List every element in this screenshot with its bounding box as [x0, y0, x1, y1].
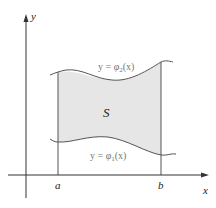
lower-curve-label: y = φ1(x) — [90, 150, 126, 163]
region-diagram: y x a b S y = φ2(x) y = φ1(x) — [0, 0, 216, 208]
y-axis-label: y — [30, 10, 36, 22]
region-label: S — [103, 105, 110, 120]
x-axis-label: x — [202, 184, 208, 196]
y-axis-arrow-icon — [24, 14, 29, 22]
region-s-fill — [58, 62, 161, 155]
a-label: a — [55, 179, 61, 191]
b-label: b — [158, 179, 164, 191]
x-axis-arrow-icon — [201, 173, 209, 178]
upper-curve-label: y = φ2(x) — [98, 61, 134, 74]
